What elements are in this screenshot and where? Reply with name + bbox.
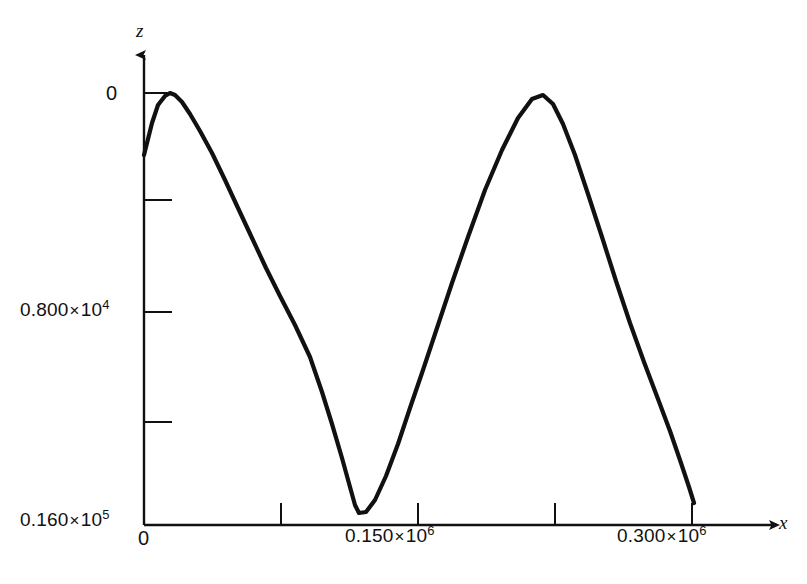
- data-curve: [144, 93, 694, 513]
- plot-canvas: [0, 0, 807, 584]
- chart-figure: 0 0.800×104 0.160×105 0 0.150×106 0.300×…: [0, 0, 807, 584]
- x-axis-ticks: [281, 503, 692, 525]
- x-tick-label-300000: 0.300×106: [617, 525, 707, 547]
- x-axis-name-label: x: [779, 512, 787, 534]
- y-tick-label-0: 0: [106, 82, 117, 105]
- x-tick-label-150000: 0.150×106: [345, 525, 435, 547]
- x-tick-label-origin: 0: [138, 527, 149, 550]
- y-tick-label-8000: 0.800×104: [20, 299, 110, 321]
- y-axis-name-label: z: [136, 20, 143, 42]
- y-tick-label-16000: 0.160×105: [20, 509, 110, 531]
